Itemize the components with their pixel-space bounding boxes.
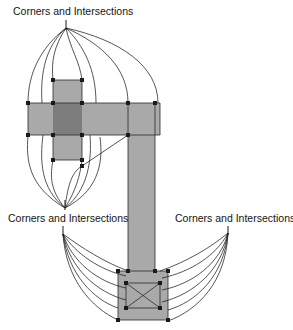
bottom-right-annotation-label: Corners and Intersections: [175, 212, 293, 224]
long-vertical-bar: [128, 103, 155, 273]
corner-marker: [124, 281, 128, 285]
corner-marker: [153, 101, 157, 105]
corner-marker: [158, 306, 162, 310]
corner-marker: [166, 269, 170, 273]
corners-and-intersections-diagram: Corners and Intersections Corners and In…: [0, 0, 293, 330]
corner-marker: [166, 318, 170, 322]
corner-marker: [126, 101, 130, 105]
top-annotation-label: Corners and Intersections: [13, 5, 133, 17]
corner-marker: [126, 269, 130, 273]
corner-marker: [124, 306, 128, 310]
corner-marker: [116, 269, 120, 273]
bottom-left-annotation-label: Corners and Intersections: [8, 212, 128, 224]
corner-marker: [116, 318, 120, 322]
corner-marker: [153, 269, 157, 273]
corner-marker: [80, 78, 84, 82]
corner-marker: [51, 133, 55, 137]
corner-marker: [80, 158, 84, 162]
corner-marker: [80, 164, 84, 168]
corner-marker: [80, 101, 84, 105]
corner-marker: [126, 133, 130, 137]
cross-overlap-region: [53, 103, 82, 135]
corner-marker: [51, 101, 55, 105]
figure-root: Corners and Intersections Corners and In…: [0, 0, 293, 330]
corner-marker: [26, 133, 30, 137]
corner-marker: [158, 281, 162, 285]
corner-marker: [26, 101, 30, 105]
corner-marker: [51, 78, 55, 82]
corner-marker: [80, 133, 84, 137]
corner-marker: [51, 158, 55, 162]
